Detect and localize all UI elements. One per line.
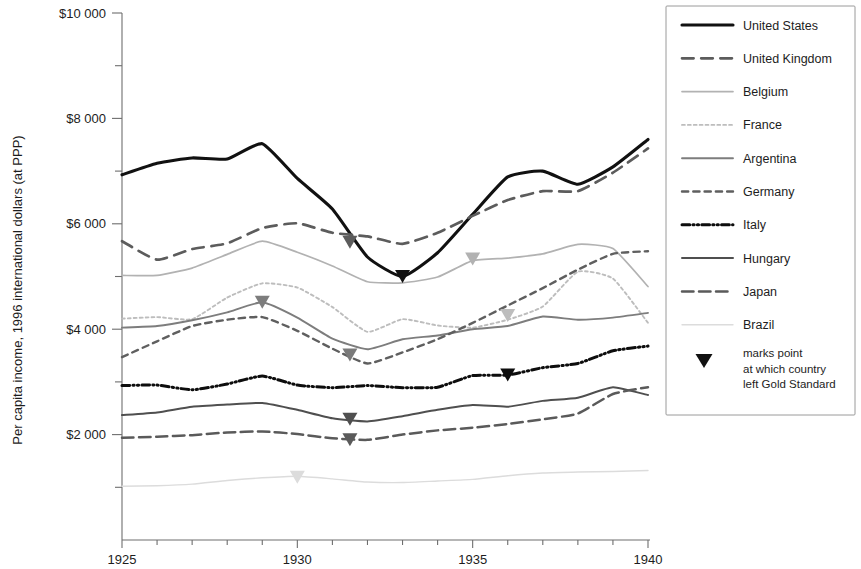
y-axis-tick-label: $6 000: [66, 216, 106, 231]
y-axis-tick-label: $8 000: [66, 111, 106, 126]
x-axis-tick-label: 1925: [108, 552, 137, 567]
y-axis-tick-label: $10 000: [59, 6, 106, 21]
legend-label-germany: Germany: [743, 185, 795, 199]
chart-root: Per capita income, 1996 international do…: [0, 0, 861, 569]
x-axis-tick-labels: 1925193019351940: [108, 552, 663, 567]
y-axis-title-text: Per capita income, 1996 international do…: [10, 135, 25, 444]
series-line-italy: [122, 346, 648, 390]
series-line-japan: [122, 387, 648, 440]
legend-label-japan: Japan: [743, 285, 777, 299]
gold-standard-marker-brazil: [290, 471, 305, 484]
series-line-united-states: [122, 139, 648, 276]
y-axis-tick-labels: $2 000$4 000$6 000$8 000$10 000: [59, 6, 106, 443]
legend-label-hungary: Hungary: [743, 252, 791, 266]
series-line-brazil: [122, 470, 648, 486]
legend-label-belgium: Belgium: [743, 85, 788, 99]
y-axis-tick-label: $2 000: [66, 427, 106, 442]
legend-note-line: at which country: [743, 363, 826, 375]
legend-label-argentina: Argentina: [743, 152, 797, 166]
y-axis-title: Per capita income, 1996 international do…: [10, 135, 25, 444]
legend-label-united-states: United States: [743, 19, 818, 33]
x-axis-tick-label: 1930: [283, 552, 312, 567]
line-chart-figure: Per capita income, 1996 international do…: [0, 0, 861, 569]
legend-note-line: left Gold Standard: [743, 378, 836, 390]
series-line-argentina: [122, 302, 648, 349]
axes: [112, 13, 650, 548]
series-line-united-kingdom: [122, 148, 648, 259]
series-line-france: [122, 271, 648, 332]
legend-label-united-kingdom: United Kingdom: [743, 52, 832, 66]
series-layer: [122, 139, 648, 486]
legend-label-italy: Italy: [743, 218, 767, 232]
legend: United StatesUnited KingdomBelgiumFrance…: [666, 6, 855, 415]
legend-label-france: France: [743, 118, 782, 132]
x-axis-tick-label: 1940: [634, 552, 663, 567]
legend-note-line: marks point: [743, 347, 803, 359]
y-axis-tick-label: $4 000: [66, 322, 106, 337]
x-axis-tick-label: 1935: [458, 552, 487, 567]
legend-label-brazil: Brazil: [743, 318, 774, 332]
gold-standard-marker-france: [500, 309, 515, 322]
gold-standard-markers: [255, 236, 515, 484]
